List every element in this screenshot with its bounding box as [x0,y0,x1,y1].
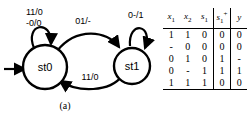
transition-st0-to-st1 [57,34,119,51]
cell-x2: 1 [180,77,197,90]
cell-x1: - [163,41,180,53]
table-row: - 0 0 0 0 [163,41,247,53]
transition-label-st1-to-st0: 11/0 [82,72,99,82]
cell-s1: 0 [196,41,213,53]
column-header-s1-subscript: 1 [204,15,208,23]
caption-a: (a) [45,100,85,111]
table-row: 1 1 1 0 0 [163,77,247,90]
cell-y: 0 [231,28,247,41]
transition-label-st0-self-line1: 11/0 [26,7,43,17]
cell-y: - [231,53,247,65]
column-header-s1-next-superscript: + [224,10,228,18]
cell-s1-next: 0 [213,77,231,90]
cell-s1-next: 0 [213,41,231,53]
transition-label-st0-self-line2: -0/0 [26,18,42,28]
table-body: 1 1 0 0 0 - 0 0 0 0 0 1 0 1 [163,28,247,89]
cell-x2: 0 [180,41,197,53]
cell-s1: 0 [196,28,213,41]
transition-table-panel: x1 x2 s1 s1+ y 1 1 0 0 0 - 0 0 [163,8,247,90]
cell-x1: 0 [163,53,180,65]
table-row: 0 1 0 1 - [163,53,247,65]
column-header-y: y [231,8,247,28]
state-machine-diagram: st0 st1 11/0 -0/0 01/- 11/0 0-/1 [0,0,160,100]
column-header-s1: s1 [196,8,213,28]
column-header-x1-subscript: 1 [172,15,176,23]
transition-table: x1 x2 s1 s1+ y 1 1 0 0 0 - 0 0 [163,8,247,90]
cell-y: 1 [231,65,247,77]
cell-s1: 1 [196,77,213,90]
state-diagram-panel: st0 st1 11/0 -0/0 01/- 11/0 0-/1 (a) [0,0,160,119]
cell-x1: 1 [163,28,180,41]
cell-s1-next: 1 [213,53,231,65]
cell-s1: 0 [196,53,213,65]
cell-x2: 1 [180,53,197,65]
cell-x1: 0 [163,65,180,77]
column-header-s1-next: s1+ [213,8,231,28]
cell-y: 0 [231,41,247,53]
state-node-st0-label: st0 [38,61,53,73]
table-header-row: x1 x2 s1 s1+ y [163,8,247,28]
transition-label-st0-to-st1: 01/- [75,16,91,26]
column-header-x1: x1 [163,8,180,28]
cell-s1-next: 0 [213,28,231,41]
transition-st1-to-st1 [130,28,147,48]
column-header-x2-subscript: 2 [188,15,192,23]
table-row: 1 1 0 0 0 [163,28,247,41]
cell-x1: 1 [163,77,180,90]
cell-x2: - [180,65,197,77]
cell-y: 0 [231,77,247,90]
state-node-st1-label: st1 [125,60,140,72]
column-header-x2: x2 [180,8,197,28]
table-row: 0 - 1 1 1 [163,65,247,77]
figure-container: st0 st1 11/0 -0/0 01/- 11/0 0-/1 (a) x1 … [0,0,250,119]
cell-x2: 1 [180,28,197,41]
transition-label-st1-self: 0-/1 [128,10,144,20]
cell-s1: 1 [196,65,213,77]
cell-s1-next: 1 [213,65,231,77]
